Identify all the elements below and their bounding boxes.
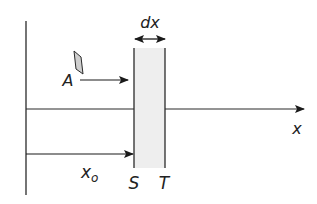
face-s-label: S bbox=[129, 173, 140, 193]
area-label: A bbox=[62, 71, 74, 90]
x0-label-subscript: o bbox=[91, 171, 98, 185]
slab-region bbox=[134, 48, 165, 168]
area-element-icon bbox=[74, 51, 83, 74]
dx-label: dx bbox=[140, 13, 160, 32]
face-t-label: T bbox=[159, 173, 171, 193]
x-axis-label: x bbox=[291, 119, 302, 138]
slab-diagram: dx A x xo S T bbox=[0, 0, 317, 204]
x0-label: xo bbox=[80, 162, 98, 185]
